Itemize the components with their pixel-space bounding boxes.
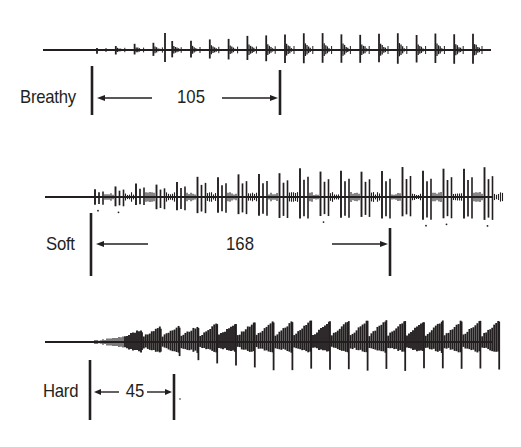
breathy-label: Breathy xyxy=(20,86,76,108)
soft-duration-value: 168 xyxy=(220,233,260,255)
soft-label: Soft xyxy=(46,233,75,255)
soft-left-arrowhead xyxy=(96,241,104,247)
stray-dot xyxy=(179,398,181,400)
soft-right-arrowhead xyxy=(380,241,388,247)
hard-waveform xyxy=(45,320,499,371)
breathy-right-arrowhead xyxy=(270,95,278,101)
hard-right-arrowhead xyxy=(165,389,172,395)
breathy-duration-value: 105 xyxy=(172,86,211,108)
breathy-left-arrowhead xyxy=(97,95,105,101)
soft-waveform xyxy=(45,167,503,227)
breathy-waveform xyxy=(43,33,491,64)
hard-duration-value: 45 xyxy=(122,380,148,402)
hard-left-arrowhead xyxy=(94,389,101,395)
hard-label: Hard xyxy=(43,380,78,402)
